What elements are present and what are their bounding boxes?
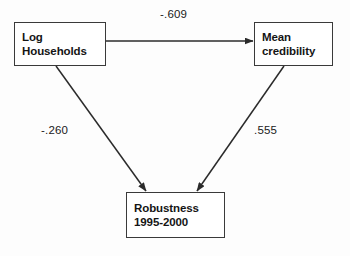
edge-households-to-robustness: [56, 66, 146, 191]
node-robustness-line-2: 1995-2000: [134, 215, 224, 229]
node-robustness-line-1: Robustness: [134, 201, 224, 215]
node-robustness[interactable]: Robustness 1995-2000: [126, 192, 225, 238]
node-mean-credibility[interactable]: Mean credibility: [254, 22, 333, 66]
edge-label-credibility-to-robustness: .555: [254, 124, 277, 136]
node-log-households[interactable]: Log Households: [14, 22, 106, 66]
node-mean-credibility-line-1: Mean: [262, 30, 332, 44]
node-log-households-line-2: Households: [22, 44, 105, 58]
edge-label-households-to-robustness: -.260: [41, 124, 68, 136]
path-diagram-canvas: Log Households Mean credibility Robustne…: [0, 0, 350, 256]
node-log-households-line-1: Log: [22, 30, 105, 44]
edge-label-households-to-credibility: -.609: [160, 8, 187, 20]
node-mean-credibility-line-2: credibility: [262, 44, 332, 58]
